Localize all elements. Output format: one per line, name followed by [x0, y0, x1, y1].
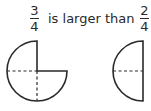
half-circle [113, 41, 143, 101]
fraction-figures [0, 0, 151, 111]
three-quarters-circle [7, 41, 67, 101]
